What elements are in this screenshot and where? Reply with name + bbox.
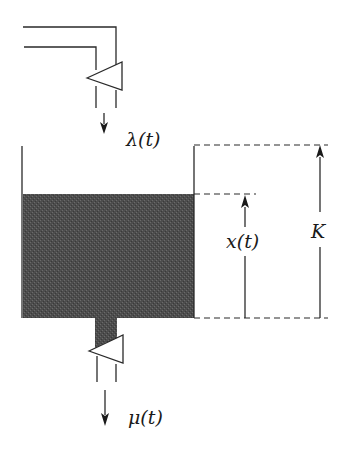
capacity-label: K [310, 220, 327, 242]
inlet-valve-icon [87, 62, 122, 90]
outflow-label: μ(t) [128, 406, 163, 428]
tank-diagram: λ(t) μ(t) x(t) K [0, 0, 349, 456]
inlet-pipe [23, 27, 116, 108]
level-dimension [241, 195, 249, 318]
liquid-fill [23, 194, 194, 318]
outflow-arrow [101, 390, 109, 426]
reference-lines [194, 145, 328, 318]
inflow-arrow [100, 113, 108, 134]
level-label: x(t) [226, 230, 259, 252]
inflow-label: λ(t) [125, 128, 161, 150]
outlet-pipe [95, 318, 117, 342]
